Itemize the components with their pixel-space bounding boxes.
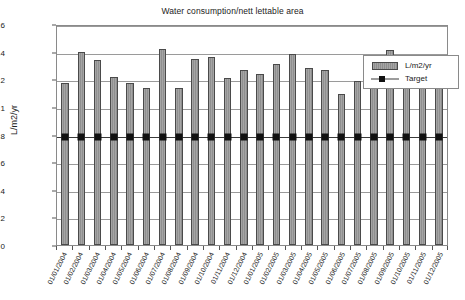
chart-container: Water consumption/nett lettable area L/m… (0, 0, 465, 300)
target-marker (224, 133, 231, 140)
chart-title: Water consumption/nett lettable area (0, 6, 465, 16)
target-marker (370, 133, 377, 140)
target-cell (333, 26, 349, 245)
target-cell (220, 26, 236, 245)
target-cell (301, 26, 317, 245)
target-cell (285, 26, 301, 245)
target-cell (155, 26, 171, 245)
target-marker (273, 133, 280, 140)
target-marker (289, 133, 296, 140)
target-cell (138, 26, 154, 245)
target-cell (57, 26, 73, 245)
target-marker (208, 133, 215, 140)
legend-bar-swatch-icon (368, 62, 402, 70)
target-marker (435, 133, 442, 140)
y-axis-tick-label: 1.2 (0, 76, 5, 85)
y-axis-label: L/m2/yr (9, 80, 19, 160)
target-marker (127, 133, 134, 140)
target-marker (159, 133, 166, 140)
target-cell (236, 26, 252, 245)
target-cell (73, 26, 89, 245)
target-cell (90, 26, 106, 245)
target-cell (203, 26, 219, 245)
target-cell (252, 26, 268, 245)
target-marker (257, 133, 264, 140)
y-axis-tick-label: 0.2 (0, 214, 5, 223)
y-axis-tick-label: 1.6 (0, 21, 5, 30)
target-marker (110, 133, 117, 140)
legend-target-marker-icon (368, 74, 402, 84)
target-marker (419, 133, 426, 140)
target-cell (106, 26, 122, 245)
legend-label-target: Target (402, 74, 427, 83)
target-cell (268, 26, 284, 245)
target-marker (305, 133, 312, 140)
legend-label-bars: L/m2/yr (402, 61, 432, 70)
target-marker (78, 133, 85, 140)
target-marker (192, 133, 199, 140)
target-cell (122, 26, 138, 245)
target-marker (175, 133, 182, 140)
plot-area: L/m2/yr Target (56, 25, 448, 246)
target-marker (94, 133, 101, 140)
target-cell (317, 26, 333, 245)
target-marker (338, 133, 345, 140)
target-marker (403, 133, 410, 140)
legend-item-target: Target (368, 72, 454, 85)
target-marker (62, 133, 69, 140)
target-marker (387, 133, 394, 140)
chart-legend: L/m2/yr Target (363, 55, 459, 89)
y-axis-tick-label: 0.6 (0, 159, 5, 168)
y-axis-tick-label: 1 (0, 103, 5, 112)
x-axis-labels: 01/01/200401/02/200401/03/200401/04/2004… (56, 250, 448, 300)
target-cell (187, 26, 203, 245)
target-marker (143, 133, 150, 140)
target-cell (171, 26, 187, 245)
y-axis-tick-label: 0.8 (0, 131, 5, 140)
legend-item-bars: L/m2/yr (368, 59, 454, 72)
target-marker (354, 133, 361, 140)
y-axis-tick-label: 0.4 (0, 186, 5, 195)
x-axis-label-cell: 01/12/2005 (432, 250, 448, 300)
y-axis-tick-label: 1.4 (0, 48, 5, 57)
target-marker (240, 133, 247, 140)
y-axis-tick-label: 0 (0, 242, 5, 251)
target-marker (322, 133, 329, 140)
